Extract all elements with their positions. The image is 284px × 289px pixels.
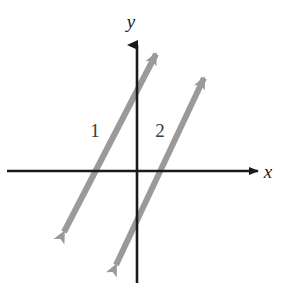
line-2-label: 2 [155, 120, 165, 141]
graph-figure: x y 1 2 [0, 0, 284, 289]
line-1-label: 1 [90, 120, 100, 141]
coordinate-plane-svg: x y 1 2 [0, 0, 284, 289]
y-axis-label: y [125, 11, 136, 32]
x-axis-label: x [263, 161, 273, 182]
